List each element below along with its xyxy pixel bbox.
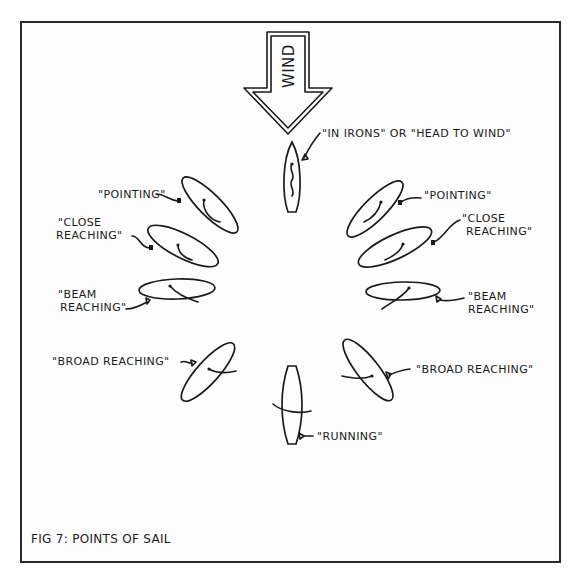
- points-of-sail-diagram: WIND "IN IRONS" OR "HEAD TO WIND" "POINT…: [0, 0, 578, 577]
- figure-caption: FIG 7: POINTS OF SAIL: [31, 532, 171, 546]
- label-close-reaching-right-1: "CLOSE: [462, 212, 505, 225]
- wind-arrow-icon: WIND: [244, 32, 332, 134]
- boat-in-irons: [284, 133, 320, 212]
- label-close-reaching-left-1: "CLOSE: [58, 216, 101, 229]
- label-pointing-left: "POINTING": [98, 188, 166, 201]
- label-running: "RUNNING": [317, 430, 383, 443]
- label-beam-reaching-right-2: REACHING": [468, 303, 535, 316]
- boat-pointing-left: [156, 170, 245, 239]
- label-broad-reaching-right: "BROAD REACHING": [416, 363, 534, 376]
- boat-broad-reaching-left: [174, 336, 241, 407]
- label-beam-reaching-left-2: REACHING": [60, 301, 127, 314]
- boat-beam-reaching-left: [126, 278, 215, 309]
- label-beam-reaching-left-1: "BEAM: [58, 288, 97, 301]
- wind-label: WIND: [280, 44, 298, 88]
- boat-beam-reaching-right: [366, 281, 464, 309]
- label-in-irons: "IN IRONS" OR "HEAD TO WIND": [322, 127, 511, 140]
- label-close-reaching-right-2: REACHING": [466, 225, 533, 238]
- boat-close-reaching-left: [132, 218, 223, 275]
- label-broad-reaching-left: "BROAD REACHING": [52, 355, 170, 368]
- boat-pointing-right: [340, 174, 421, 243]
- label-beam-reaching-right-1: "BEAM: [468, 290, 507, 303]
- boat-broad-reaching-right: [336, 333, 410, 406]
- boat-running: [273, 366, 313, 444]
- label-close-reaching-left-2: REACHING": [56, 229, 123, 242]
- label-pointing-right: "POINTING": [424, 189, 492, 202]
